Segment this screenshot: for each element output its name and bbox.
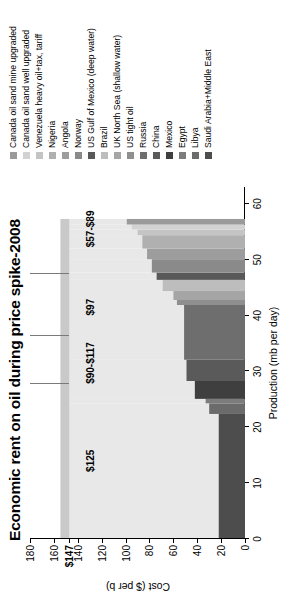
legend-item-label: Brazil bbox=[99, 127, 110, 149]
rent-area-norway bbox=[69, 259, 151, 272]
legend-item[interactable]: China bbox=[151, 3, 163, 159]
legend-item[interactable]: Libya bbox=[190, 3, 202, 159]
price-annotation: $125 bbox=[84, 450, 95, 472]
y-tick-mark bbox=[221, 539, 222, 543]
price-annotation: $90-$117 bbox=[84, 342, 95, 384]
x-tick-mark bbox=[245, 538, 249, 539]
x-tick-label: 10 bbox=[245, 478, 263, 489]
legend-item[interactable]: Norway bbox=[73, 3, 85, 159]
y-tick-label: $147 bbox=[64, 539, 75, 567]
legend-item[interactable]: Venezuela heavy oil+tax, tariff bbox=[34, 3, 46, 159]
cost-bar-uk-north-sea-shallow-water- bbox=[173, 291, 245, 300]
cost-bar-angola bbox=[147, 249, 245, 260]
cost-bar-mexico bbox=[195, 381, 245, 399]
x-tick-mark bbox=[245, 370, 249, 371]
cost-bar-russia bbox=[184, 305, 245, 360]
legend-item[interactable]: Nigeria bbox=[47, 3, 59, 159]
legend-item-label: Nigeria bbox=[47, 121, 58, 148]
legend-item-label: Russia bbox=[138, 122, 149, 148]
y-tick-mark bbox=[173, 539, 174, 543]
rent-area-us-gulf-of-mexico-deep-water- bbox=[69, 273, 156, 280]
chart-title: Economic rent on oil during price spike-… bbox=[6, 165, 24, 595]
legend-item[interactable]: Canada oil sand well upgraded bbox=[21, 3, 33, 159]
legend-item-label: Canada oil sand well upgraded bbox=[21, 30, 32, 148]
legend-item[interactable]: Saudi Arabia+Middle East bbox=[203, 3, 215, 159]
legend-swatch-icon bbox=[101, 152, 108, 159]
legend-swatch-icon bbox=[166, 152, 173, 159]
legend-swatch-icon bbox=[36, 152, 43, 159]
legend: Canada oil sand mine upgradedCanada oil … bbox=[8, 3, 216, 159]
x-tick-mark bbox=[245, 259, 249, 260]
legend-item-label: China bbox=[151, 126, 162, 148]
cost-bar-us-gulf-of-mexico-deep-water- bbox=[157, 273, 245, 280]
supply-curve-svg bbox=[30, 186, 245, 538]
y-tick-mark bbox=[149, 539, 150, 543]
legend-item-label: Egypt bbox=[177, 126, 188, 148]
legend-item[interactable]: Mexico bbox=[164, 3, 176, 159]
legend-swatch-icon bbox=[179, 152, 186, 159]
x-tick-label: 20 bbox=[245, 422, 263, 433]
band-separator bbox=[30, 335, 69, 336]
legend-item[interactable]: Canada oil sand mine upgraded bbox=[8, 3, 20, 159]
band-separator bbox=[30, 383, 69, 384]
x-tick-mark bbox=[245, 426, 249, 427]
legend-item-label: Angola bbox=[60, 121, 71, 148]
rent-area-angola bbox=[69, 249, 147, 260]
legend-swatch-icon bbox=[49, 152, 56, 159]
cost-bar-china bbox=[186, 360, 245, 381]
x-tick-mark bbox=[245, 482, 249, 483]
plot-area-wrapper: 020406080100120140$147160180 01020304050… bbox=[30, 187, 245, 539]
legend-item-label: Libya bbox=[190, 127, 201, 148]
legend-item-label: Norway bbox=[73, 119, 84, 148]
legend-item[interactable]: Egypt bbox=[177, 3, 189, 159]
legend-item[interactable]: US tight oil bbox=[125, 3, 137, 159]
rent-area-libya bbox=[69, 403, 209, 414]
figure: Economic rent on oil during price spike-… bbox=[0, 0, 292, 595]
legend-swatch-icon bbox=[23, 152, 30, 159]
legend-item[interactable]: Russia bbox=[138, 3, 150, 159]
legend-swatch-icon bbox=[62, 152, 69, 159]
legend-item-label: US tight oil bbox=[125, 106, 136, 148]
plot-area bbox=[30, 187, 245, 539]
price-annotation: $97 bbox=[84, 299, 95, 316]
y-tick-mark bbox=[126, 539, 127, 543]
legend-swatch-icon bbox=[10, 152, 17, 159]
y-tick-mark bbox=[54, 539, 55, 543]
cost-bar-venezuela-heavy-oil-tax-tariff bbox=[138, 230, 246, 236]
legend-item[interactable]: Brazil bbox=[99, 3, 111, 159]
x-tick-label: 30 bbox=[245, 366, 263, 377]
legend-item-label: Saudi Arabia+Middle East bbox=[203, 49, 214, 148]
rent-area-egypt bbox=[69, 399, 205, 403]
x-tick-label: 50 bbox=[245, 254, 263, 265]
cost-bar-nigeria bbox=[142, 235, 245, 248]
rent-area-venezuela-heavy-oil-tax-tariff bbox=[69, 230, 137, 236]
x-tick-mark bbox=[245, 203, 249, 204]
cost-bar-egypt bbox=[206, 399, 245, 403]
legend-swatch-icon bbox=[127, 152, 134, 159]
legend-item[interactable]: Angola bbox=[60, 3, 72, 159]
cost-bar-us-tight-oil bbox=[177, 300, 245, 305]
rent-area-canada-oil-sand-mine-upgraded bbox=[69, 219, 126, 225]
y-axis-label: Cost ($ per b) bbox=[105, 581, 169, 593]
y-tick-mark bbox=[78, 539, 79, 543]
legend-swatch-icon bbox=[192, 152, 199, 159]
legend-item[interactable]: US Gulf of Mexico (deep water) bbox=[86, 3, 98, 159]
cost-bar-canada-oil-sand-mine-upgraded bbox=[127, 219, 245, 225]
y-tick-mark bbox=[102, 539, 103, 543]
x-tick-mark bbox=[245, 315, 249, 316]
legend-swatch-icon bbox=[205, 152, 212, 159]
y-tick-mark bbox=[197, 539, 198, 543]
band-separator bbox=[30, 273, 69, 274]
legend-swatch-icon bbox=[88, 152, 95, 159]
y-tick-mark bbox=[30, 539, 31, 543]
legend-swatch-icon bbox=[114, 152, 121, 159]
x-tick-label: 60 bbox=[245, 198, 263, 209]
legend-item-label: US Gulf of Mexico (deep water) bbox=[86, 28, 97, 148]
legend-item-label: Venezuela heavy oil+tax, tariff bbox=[34, 34, 45, 148]
rotated-figure-container: Economic rent on oil during price spike-… bbox=[0, 0, 292, 595]
chart-block: Economic rent on oil during price spike-… bbox=[0, 165, 292, 595]
price-annotation: $57-$89 bbox=[84, 211, 95, 248]
cost-bar-canada-oil-sand-well-upgraded bbox=[132, 225, 245, 230]
legend-item[interactable]: UK North Sea (shallow water) bbox=[112, 3, 124, 159]
x-tick-label: 40 bbox=[245, 310, 263, 321]
